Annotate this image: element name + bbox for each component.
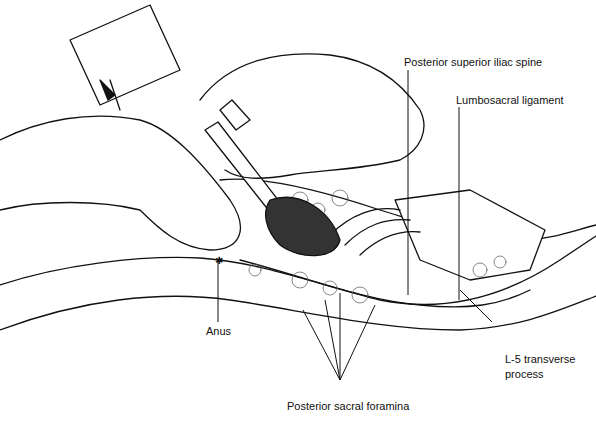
lower-contour: [0, 296, 596, 330]
label-l5-transverse-line1: L-5 transverse: [505, 353, 575, 366]
label-psis: Posterior superior iliac spine: [404, 56, 542, 69]
label-anus: Anus: [206, 325, 231, 338]
leader-foramina-4: [340, 305, 375, 380]
mallet: [70, 5, 180, 105]
retractor: [395, 190, 545, 280]
label-lumbosacral-ligament: Lumbosacral ligament: [456, 94, 564, 107]
anus-marker: ✱: [215, 255, 223, 266]
sacral-cavity: [266, 197, 340, 255]
left-hand: [0, 116, 240, 250]
label-posterior-sacral-foramina: Posterior sacral foramina: [287, 400, 409, 413]
leader-foramina-3: [325, 300, 340, 380]
leader-foramina-2: [303, 310, 340, 380]
label-l5-transverse-line2: process: [505, 368, 544, 381]
